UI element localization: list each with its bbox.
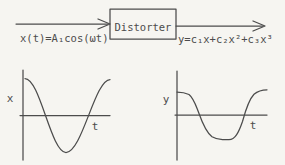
distorter-box-label: Distorter [115,21,172,33]
input-waveform-plot: x t [7,70,110,160]
output-waveform-plot: y t [163,71,267,160]
input-plot-x-axis-label: t [92,120,99,133]
input-plot-y-axis-label: x [7,92,14,105]
input-signal-formula: x(t)=A₁cos(ωt) [20,32,109,44]
output-plot-x-axis-label: t [250,119,257,132]
output-signal-formula: y=c₁x+c₂x²+c₃x³ [178,33,273,45]
output-plot-y-axis-label: y [163,93,170,106]
block-diagram: Distorter x(t)=A₁cos(ωt) y=c₁x+c₂x²+c₃x³ [16,9,273,45]
distortion-figure: Distorter x(t)=A₁cos(ωt) y=c₁x+c₂x²+c₃x³… [0,0,285,165]
